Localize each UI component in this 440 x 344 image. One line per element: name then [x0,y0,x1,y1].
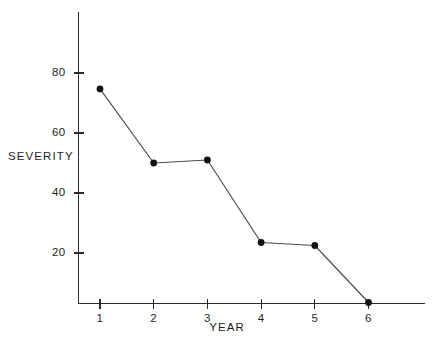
data-point [204,157,211,164]
axes-group [78,12,425,304]
y-tick-label: 80 [26,66,66,78]
data-point [258,239,265,246]
data-line-severity [100,89,369,303]
y-tick-label: 20 [26,246,66,258]
y-axis-title: SEVERITY [8,150,74,162]
data-point [97,86,104,93]
data-point [311,242,318,249]
data-point [150,160,157,167]
x-axis-title: YEAR [0,321,440,333]
data-point [365,299,372,306]
line-chart: 80604020 123456 SEVERITY YEAR [0,0,440,344]
chart-plot-area [0,0,440,344]
data-point-markers [97,86,372,306]
y-tick-label: 60 [26,126,66,138]
y-tick-label: 40 [26,186,66,198]
